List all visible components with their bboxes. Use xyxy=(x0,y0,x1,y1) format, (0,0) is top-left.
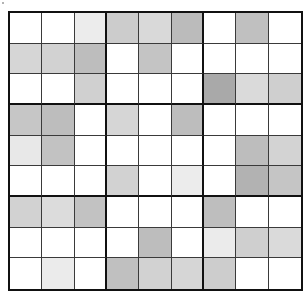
grid-cell-r9-c4[interactable] xyxy=(107,258,139,289)
grid-cell-r2-c6[interactable] xyxy=(172,44,204,75)
grid-cell-r9-c6[interactable] xyxy=(172,258,204,289)
grid-cell-r3-c8[interactable] xyxy=(236,74,268,105)
grid-cell-r7-c4[interactable] xyxy=(107,197,139,228)
grid-cell-r3-c5[interactable] xyxy=(139,74,171,105)
grid-cell-r5-c6[interactable] xyxy=(172,136,204,167)
grid-cell-r7-c9[interactable] xyxy=(269,197,301,228)
grid-cell-r1-c9[interactable] xyxy=(269,13,301,44)
grid-cell-r1-c2[interactable] xyxy=(42,13,74,44)
grid-cell-r2-c9[interactable] xyxy=(269,44,301,75)
grid-cell-r2-c8[interactable] xyxy=(236,44,268,75)
grid-cell-r3-c4[interactable] xyxy=(107,74,139,105)
grid-cell-r5-c8[interactable] xyxy=(236,136,268,167)
grid-cell-r3-c7[interactable] xyxy=(204,74,236,105)
grid-cell-r7-c6[interactable] xyxy=(172,197,204,228)
grid-cell-r9-c1[interactable] xyxy=(10,258,42,289)
grid-cell-r7-c7[interactable] xyxy=(204,197,236,228)
grid-cell-r9-c5[interactable] xyxy=(139,258,171,289)
grid-cell-r4-c2[interactable] xyxy=(42,105,74,136)
grid-cell-r6-c7[interactable] xyxy=(204,166,236,197)
grid-cell-r1-c6[interactable] xyxy=(172,13,204,44)
stray-mark xyxy=(2,2,4,4)
grid-cell-r6-c6[interactable] xyxy=(172,166,204,197)
puzzle-grid xyxy=(8,11,303,291)
grid-cell-r6-c9[interactable] xyxy=(269,166,301,197)
grid-cell-r4-c9[interactable] xyxy=(269,105,301,136)
grid-cell-r7-c5[interactable] xyxy=(139,197,171,228)
grid-cell-r6-c2[interactable] xyxy=(42,166,74,197)
grid-cell-r1-c3[interactable] xyxy=(75,13,107,44)
grid-cell-r2-c7[interactable] xyxy=(204,44,236,75)
grid-cell-r9-c8[interactable] xyxy=(236,258,268,289)
grid-cell-r4-c5[interactable] xyxy=(139,105,171,136)
grid-cell-r5-c1[interactable] xyxy=(10,136,42,167)
grid-cell-r7-c2[interactable] xyxy=(42,197,74,228)
grid-cell-r3-c2[interactable] xyxy=(42,74,74,105)
grid-cell-r4-c7[interactable] xyxy=(204,105,236,136)
grid-cell-r4-c3[interactable] xyxy=(75,105,107,136)
grid-cell-r2-c2[interactable] xyxy=(42,44,74,75)
grid-cell-r5-c2[interactable] xyxy=(42,136,74,167)
grid-cell-r8-c1[interactable] xyxy=(10,228,42,259)
grid-cell-r4-c8[interactable] xyxy=(236,105,268,136)
puzzle-canvas xyxy=(0,0,308,299)
grid-cell-r7-c1[interactable] xyxy=(10,197,42,228)
grid-cell-r4-c4[interactable] xyxy=(107,105,139,136)
grid-cell-r1-c4[interactable] xyxy=(107,13,139,44)
grid-cell-r7-c8[interactable] xyxy=(236,197,268,228)
grid-cell-r8-c3[interactable] xyxy=(75,228,107,259)
grid-cell-r2-c1[interactable] xyxy=(10,44,42,75)
grid-cell-r2-c4[interactable] xyxy=(107,44,139,75)
grid-cell-r9-c9[interactable] xyxy=(269,258,301,289)
grid-cell-r3-c1[interactable] xyxy=(10,74,42,105)
grid-cell-r9-c7[interactable] xyxy=(204,258,236,289)
grid-cell-r5-c5[interactable] xyxy=(139,136,171,167)
grid-cell-r6-c3[interactable] xyxy=(75,166,107,197)
grid-cell-r1-c7[interactable] xyxy=(204,13,236,44)
grid-cell-r4-c6[interactable] xyxy=(172,105,204,136)
grid-cell-r9-c2[interactable] xyxy=(42,258,74,289)
grid-cell-r8-c9[interactable] xyxy=(269,228,301,259)
grid-cell-r3-c9[interactable] xyxy=(269,74,301,105)
grid-cell-r9-c3[interactable] xyxy=(75,258,107,289)
grid-cell-r3-c3[interactable] xyxy=(75,74,107,105)
grid-cell-r6-c8[interactable] xyxy=(236,166,268,197)
grid-cell-r3-c6[interactable] xyxy=(172,74,204,105)
grid-cell-r6-c4[interactable] xyxy=(107,166,139,197)
grid-cell-r5-c3[interactable] xyxy=(75,136,107,167)
grid-cell-r6-c1[interactable] xyxy=(10,166,42,197)
grid-cell-r5-c4[interactable] xyxy=(107,136,139,167)
grid-cell-r8-c7[interactable] xyxy=(204,228,236,259)
grid-cell-r1-c8[interactable] xyxy=(236,13,268,44)
grid-cell-r1-c5[interactable] xyxy=(139,13,171,44)
grid-cell-r2-c5[interactable] xyxy=(139,44,171,75)
grid-cell-r8-c4[interactable] xyxy=(107,228,139,259)
grid-cell-r7-c3[interactable] xyxy=(75,197,107,228)
grid-cell-r8-c6[interactable] xyxy=(172,228,204,259)
grid-cell-r2-c3[interactable] xyxy=(75,44,107,75)
grid-cell-r5-c9[interactable] xyxy=(269,136,301,167)
grid-cell-r1-c1[interactable] xyxy=(10,13,42,44)
grid-cell-r6-c5[interactable] xyxy=(139,166,171,197)
grid-cell-r4-c1[interactable] xyxy=(10,105,42,136)
grid-cell-r8-c5[interactable] xyxy=(139,228,171,259)
grid-cell-r5-c7[interactable] xyxy=(204,136,236,167)
grid-cell-r8-c2[interactable] xyxy=(42,228,74,259)
grid-cell-r8-c8[interactable] xyxy=(236,228,268,259)
